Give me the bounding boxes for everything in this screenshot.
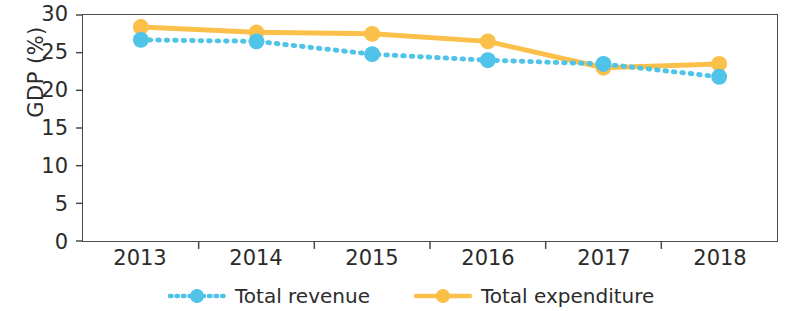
data-point-total-revenue [249,33,265,49]
data-point-total-revenue [711,69,727,85]
x-axis-tick-label: 2016 [433,246,543,270]
y-axis-tick-label: 10 [28,154,68,178]
legend-swatch-solid-line-icon [414,288,472,304]
series-line-total-revenue [141,40,719,77]
y-axis-tick-label: 30 [28,2,68,26]
legend-item-total-revenue: Total revenue [168,284,370,308]
chart-figure: GDP (%) 051015202530 2013201420152016201… [0,0,794,311]
y-axis-tick-label: 20 [28,78,68,102]
x-axis-tick-labels: 201320142015201620172018 [82,246,778,280]
data-point-total-revenue [596,56,612,72]
data-point-total-expenditure [364,26,380,42]
plot-svg [83,15,777,241]
legend-label-total-expenditure: Total expenditure [481,284,654,308]
chart-legend: Total revenue Total expenditure [82,281,702,311]
y-axis-tick-label: 25 [28,40,68,64]
x-axis-tick-label: 2018 [665,246,775,270]
legend-swatch-dotted-line-icon [168,288,226,304]
y-axis-tick-label: 15 [28,116,68,140]
legend-item-total-expenditure: Total expenditure [414,284,654,308]
y-axis-tick-label: 5 [28,192,68,216]
data-point-total-revenue [364,46,380,62]
plot-area [82,14,778,242]
series-line-total-expenditure [141,27,719,68]
x-axis-tick-label: 2013 [85,246,195,270]
x-axis-tick-label: 2017 [549,246,659,270]
legend-label-total-revenue: Total revenue [235,284,370,308]
data-point-total-revenue [480,52,496,68]
y-axis-tick-label: 0 [28,230,68,254]
data-point-total-expenditure [480,33,496,49]
x-axis-tick-label: 2014 [201,246,311,270]
x-axis-tick-label: 2015 [317,246,427,270]
data-point-total-revenue [133,32,149,48]
y-axis-tick-labels: 051015202530 [20,0,68,311]
